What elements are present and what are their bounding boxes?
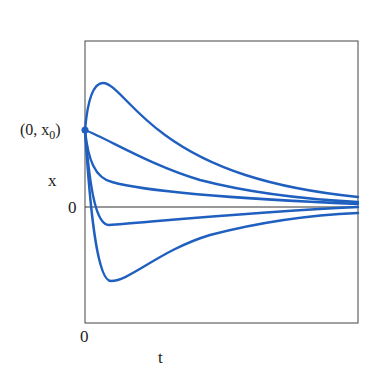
curve-5 [85, 130, 358, 281]
chart: (0, x0) x 0 0 t [0, 0, 380, 384]
plot-frame [85, 41, 358, 323]
x-axis-label: t [158, 348, 163, 367]
x-zero-tick: 0 [80, 327, 89, 346]
curve-1 [85, 83, 358, 197]
initial-point-marker [82, 127, 89, 134]
initial-point-label: (0, x0) [20, 121, 61, 142]
y-zero-tick: 0 [68, 198, 77, 217]
y-axis-label: x [48, 171, 57, 190]
curve-4 [85, 130, 358, 225]
solution-curves [85, 83, 358, 281]
